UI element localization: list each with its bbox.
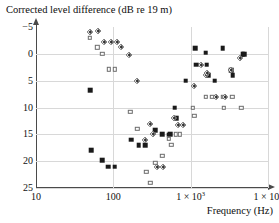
data-point-shaded-diamond xyxy=(133,77,139,83)
data-point-open-square xyxy=(95,45,99,49)
data-point-shaded-diamond xyxy=(160,163,166,169)
data-point-shaded-diamond xyxy=(95,28,101,34)
data-point-open-square xyxy=(169,143,173,147)
data-point-open-square xyxy=(135,127,139,131)
data-point-shaded-diamond xyxy=(236,55,242,61)
x-axis-arrow-icon xyxy=(268,184,275,190)
gridline-horizontal xyxy=(36,161,268,162)
x-tick-label: 1 × 104 xyxy=(254,191,279,202)
data-point-open-square xyxy=(203,95,207,99)
y-axis-tick-labels: −50510152025 xyxy=(0,0,33,223)
gridline-horizontal xyxy=(36,108,268,109)
y-tick-label: 10 xyxy=(23,103,33,113)
gridline-horizontal xyxy=(36,188,268,189)
data-point-filled-square xyxy=(220,46,225,51)
data-point-filled-square xyxy=(106,164,111,169)
data-point-open-square xyxy=(148,180,152,184)
data-point-filled-square xyxy=(88,88,93,93)
y-tick-label: 0 xyxy=(28,49,33,59)
data-point-filled-square xyxy=(203,50,208,55)
data-point-filled-square xyxy=(160,132,165,137)
data-point-shaded-diamond xyxy=(150,131,156,137)
y-tick-label: 5 xyxy=(28,76,33,86)
data-point-shaded-diamond xyxy=(212,94,218,100)
x-axis-title: Frequency (Hz) xyxy=(207,205,273,217)
data-point-open-square xyxy=(107,67,111,71)
data-point-shaded-diamond xyxy=(118,44,124,50)
data-point-open-square xyxy=(230,95,234,99)
data-point-open-square xyxy=(88,36,92,40)
data-point-filled-square xyxy=(183,78,188,83)
gridline-horizontal xyxy=(36,81,268,82)
data-point-shaded-diamond xyxy=(107,39,113,45)
data-point-open-square xyxy=(239,105,243,109)
data-point-filled-square xyxy=(136,143,141,148)
data-point-filled-square xyxy=(129,137,134,142)
x-tick-label: 100 xyxy=(106,191,121,202)
data-point-shaded-diamond xyxy=(221,94,227,100)
x-tick-label: 1 × 103 xyxy=(176,191,205,202)
data-point-open-square xyxy=(191,105,195,109)
data-point-open-square xyxy=(144,170,148,174)
data-point-filled-square xyxy=(143,143,148,148)
data-point-shaded-diamond xyxy=(126,52,132,58)
data-point-shaded-diamond xyxy=(191,83,197,89)
chart-figure: Corrected level difference (dB re 19 m) … xyxy=(0,0,279,223)
data-point-open-square xyxy=(160,154,164,158)
data-point-open-square xyxy=(177,132,181,136)
data-point-filled-square xyxy=(89,148,94,153)
gridline-vertical xyxy=(268,27,269,188)
data-point-filled-square xyxy=(112,164,117,169)
data-point-filled-square xyxy=(172,105,177,110)
data-point-shaded-diamond xyxy=(180,121,186,127)
data-point-shaded-diamond xyxy=(142,136,148,142)
data-point-filled-square xyxy=(193,46,198,51)
y-axis-arrow-icon xyxy=(33,18,39,25)
gridline-horizontal xyxy=(36,54,268,55)
data-point-filled-square xyxy=(230,73,235,78)
data-point-open-square xyxy=(192,113,196,117)
data-point-shaded-diamond xyxy=(198,61,204,67)
data-point-filled-square xyxy=(100,158,105,163)
data-point-shaded-diamond xyxy=(204,69,210,75)
data-point-open-square xyxy=(100,52,104,56)
data-point-open-square xyxy=(222,105,226,109)
data-point-open-square xyxy=(128,110,132,114)
data-point-shaded-diamond xyxy=(87,29,93,35)
y-tick-label: 20 xyxy=(23,156,33,166)
data-point-shaded-diamond xyxy=(171,115,177,121)
data-point-filled-square xyxy=(212,78,217,83)
data-point-shaded-diamond xyxy=(228,67,234,73)
x-tick-label: 10 xyxy=(31,191,41,202)
data-point-open-square xyxy=(112,67,116,71)
plot-area xyxy=(36,27,268,188)
data-point-open-square xyxy=(166,136,170,140)
y-tick-label: 15 xyxy=(23,129,33,139)
y-tick-label: −5 xyxy=(22,22,33,32)
data-point-shaded-diamond xyxy=(147,120,153,126)
data-point-filled-square xyxy=(205,62,210,67)
